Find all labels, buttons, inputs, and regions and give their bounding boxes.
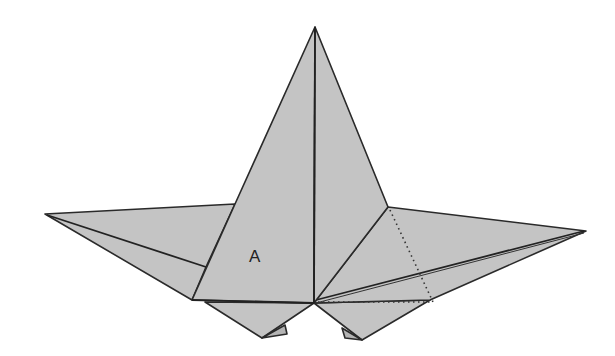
origami-diagram: A	[0, 0, 615, 356]
center-vertical-crease	[314, 27, 315, 303]
flap-a-label: A	[249, 247, 261, 266]
lower-right-flap	[314, 300, 430, 340]
lower-left-flap	[205, 302, 314, 338]
